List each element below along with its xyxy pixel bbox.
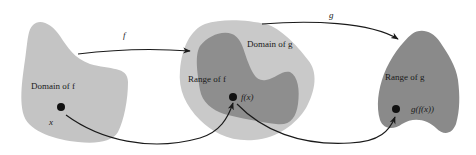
function-composition-diagram: Domain of f x f Domain of g Range of f f… [0,0,476,155]
point-x [57,103,65,111]
point-x-label: x [48,117,53,127]
range-of-g-label: Range of g [385,72,425,82]
point-gfx-label: g(f(x)) [411,104,434,114]
arrow-g-label: g [329,10,334,20]
point-fx-label: f(x) [241,92,254,102]
point-fx [229,93,237,101]
domain-of-f-label: Domain of f [31,81,75,91]
arrow-f-label: f [123,30,127,40]
arrow-f [78,50,190,54]
range-of-f-label: Range of f [188,74,226,84]
point-gfx [392,105,400,113]
domain-of-g-label: Domain of g [247,39,293,49]
